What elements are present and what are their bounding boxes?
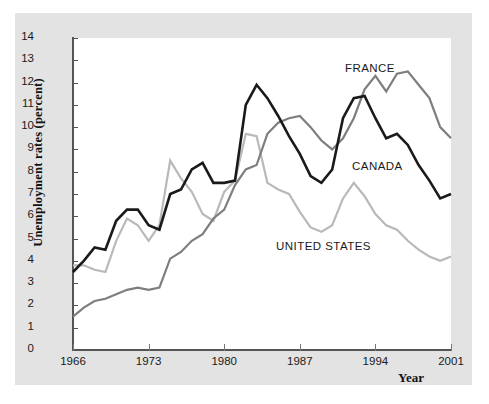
series-label-canada: CANADA	[352, 160, 403, 172]
series-label-france: FRANCE	[345, 62, 395, 74]
chart-figure: Unemployment rates (percent) Year 012345…	[0, 0, 489, 404]
series-lines	[0, 0, 489, 404]
series-line-france	[73, 71, 451, 316]
series-label-united-states: UNITED STATES	[276, 240, 371, 252]
series-line-united-states	[73, 134, 451, 272]
series-line-canada	[73, 85, 451, 272]
